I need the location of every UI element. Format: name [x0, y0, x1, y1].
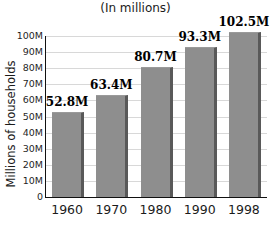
bar-value-label: 80.7M [116, 50, 196, 64]
bar-value-label: 52.8M [27, 95, 107, 109]
bar-value-label: 63.4M [71, 78, 151, 92]
y-tick-label: 100M [1, 31, 43, 40]
bar [185, 47, 217, 197]
y-tick-label: 30M [1, 144, 43, 153]
y-tick-label: 50M [1, 112, 43, 121]
bar [52, 112, 84, 197]
y-tick-label: 90M [1, 47, 43, 56]
y-axis-tick-labels: 010M20M30M40M50M60M70M80M90M100M [0, 0, 43, 232]
bar-value-label: 93.3M [160, 30, 240, 44]
y-tick-label: 20M [1, 160, 43, 169]
bar-chart-figure: (In millions) Millions of households 010… [0, 0, 271, 232]
x-tick-label: 1998 [214, 202, 271, 217]
bar-value-label: 102.5M [204, 15, 271, 29]
y-tick-label: 70M [1, 79, 43, 88]
bar [229, 32, 261, 197]
y-tick-label: 80M [1, 63, 43, 72]
y-tick-label: 40M [1, 128, 43, 137]
bar [96, 95, 128, 197]
y-tick-label: 0 [1, 192, 43, 201]
y-tick-label: 10M [1, 176, 43, 185]
